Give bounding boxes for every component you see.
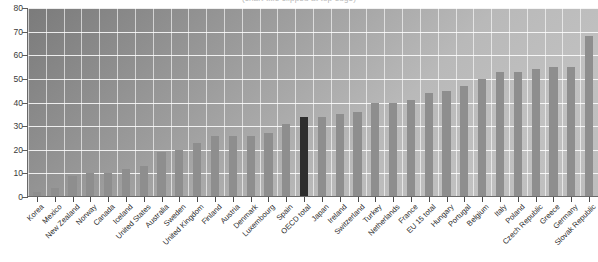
bar-series [28, 8, 598, 197]
bar [585, 36, 593, 197]
x-axis-tick [375, 197, 376, 202]
x-axis-tick [340, 197, 341, 202]
bar [140, 166, 148, 197]
x-axis-tick [589, 197, 590, 202]
bar [353, 112, 361, 197]
bar [157, 152, 165, 197]
bar [514, 72, 522, 197]
x-axis-tick [358, 197, 359, 202]
bar [247, 136, 255, 197]
x-axis-tick [268, 197, 269, 202]
x-axis-tick [571, 197, 572, 202]
bar [229, 136, 237, 197]
bar [567, 67, 575, 197]
x-axis-tick [482, 197, 483, 202]
x-axis-tick [215, 197, 216, 202]
bar [389, 103, 397, 198]
bar [68, 176, 76, 197]
x-axis-tick [233, 197, 234, 202]
bar [425, 93, 433, 197]
x-axis-tick [73, 197, 74, 202]
plot-area [28, 8, 598, 197]
bar [460, 86, 468, 197]
bar [478, 79, 486, 197]
bar [336, 114, 344, 197]
bar [532, 69, 540, 197]
bar [318, 117, 326, 197]
chart-title-clipped: (chart title clipped at top edge) [0, 0, 598, 3]
x-axis-tick [126, 197, 127, 202]
bar [104, 173, 112, 197]
bar [496, 72, 504, 197]
bar [442, 91, 450, 197]
x-axis-tick [553, 197, 554, 202]
bar [300, 117, 308, 197]
x-axis-tick [411, 197, 412, 202]
x-axis-tick [179, 197, 180, 202]
x-axis-tick [37, 197, 38, 202]
x-axis-tick [251, 197, 252, 202]
y-axis: 01020304050607080 [0, 0, 28, 205]
x-axis-tick [162, 197, 163, 202]
x-axis-tick [108, 197, 109, 202]
bar [264, 133, 272, 197]
x-axis-tick [447, 197, 448, 202]
bar-chart: (chart title clipped at top edge) 010203… [0, 0, 598, 262]
x-axis-tick [197, 197, 198, 202]
x-axis-tick [55, 197, 56, 202]
x-axis-tick [500, 197, 501, 202]
bar [282, 124, 290, 197]
bar [407, 100, 415, 197]
bar [549, 67, 557, 197]
x-axis-tick [536, 197, 537, 202]
x-axis-tick [518, 197, 519, 202]
x-axis-tick [304, 197, 305, 202]
bar [175, 150, 183, 197]
bar [211, 136, 219, 197]
x-axis-tick [144, 197, 145, 202]
bar [193, 143, 201, 197]
x-axis-tick [464, 197, 465, 202]
x-axis-tick [286, 197, 287, 202]
x-axis-tick [322, 197, 323, 202]
x-axis-labels: KoreaMexicoNew ZealandNorwayCanadaIcelan… [28, 203, 598, 262]
x-axis-tick [429, 197, 430, 202]
chart-title-text: (chart title clipped at top edge) [0, 0, 598, 3]
bar [86, 173, 94, 197]
bar [371, 103, 379, 198]
x-axis-tick [393, 197, 394, 202]
x-axis-tick [90, 197, 91, 202]
bar [122, 169, 130, 197]
